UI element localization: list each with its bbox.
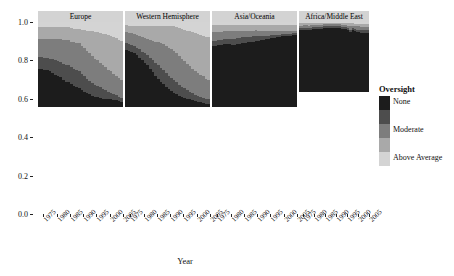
- legend-entries: NoneModerateAbove Average: [378, 96, 454, 166]
- y-axis-tick-label: 0.4: [4, 133, 28, 142]
- y-axis-tick-label: 0.0: [4, 210, 28, 219]
- legend-entry: Moderate: [378, 124, 454, 138]
- x-axis-tick-label: 2005: [368, 208, 384, 224]
- legend-title: Oversight: [379, 84, 454, 94]
- y-axis-tick-mark: [30, 176, 33, 177]
- panel-strip-title: Africa/Middle East: [299, 11, 369, 22]
- area-series: [212, 34, 297, 107]
- legend-swatch: [379, 110, 390, 124]
- y-axis-tick-mark: [30, 214, 33, 215]
- legend: Oversight NoneModerateAbove Average: [378, 84, 454, 166]
- legend-label: None: [393, 97, 410, 106]
- y-axis-tick-mark: [30, 137, 33, 138]
- y-axis-tick-label: 0.2: [4, 171, 28, 180]
- legend-entry: [378, 138, 454, 152]
- y-axis-tick-mark: [30, 22, 33, 23]
- panel-plot-area: [299, 22, 369, 214]
- area-series: [299, 28, 369, 92]
- panel-plot-area: [38, 22, 123, 214]
- legend-swatch: [379, 152, 390, 166]
- legend-entry: [378, 110, 454, 124]
- legend-label: Moderate: [393, 125, 424, 134]
- y-axis-tick-mark: [30, 99, 33, 100]
- y-axis-tick-label: 1.0: [4, 18, 28, 27]
- panel-strip-title: Asia/Oceania: [212, 11, 297, 22]
- legend-swatch: [379, 96, 390, 110]
- legend-entry: Above Average: [378, 152, 454, 166]
- y-axis-tick-mark: [30, 60, 33, 61]
- panel-plot-area: [125, 22, 210, 214]
- legend-swatch: [379, 124, 390, 138]
- panel-strip-title: Europe: [38, 11, 123, 22]
- legend-label: Above Average: [393, 153, 442, 162]
- area-series: [212, 22, 297, 25]
- x-axis-label: Year: [0, 256, 370, 266]
- chart-root: Proportion 0.00.20.40.60.81.0 EuropeWest…: [0, 0, 454, 276]
- legend-swatch: [379, 138, 390, 152]
- panel-strip-title: Western Hemisphere: [125, 11, 210, 22]
- y-axis-tick-label: 0.8: [4, 56, 28, 65]
- panel-plot-area: [212, 22, 297, 214]
- legend-entry: None: [378, 96, 454, 110]
- y-axis-tick-label: 0.6: [4, 94, 28, 103]
